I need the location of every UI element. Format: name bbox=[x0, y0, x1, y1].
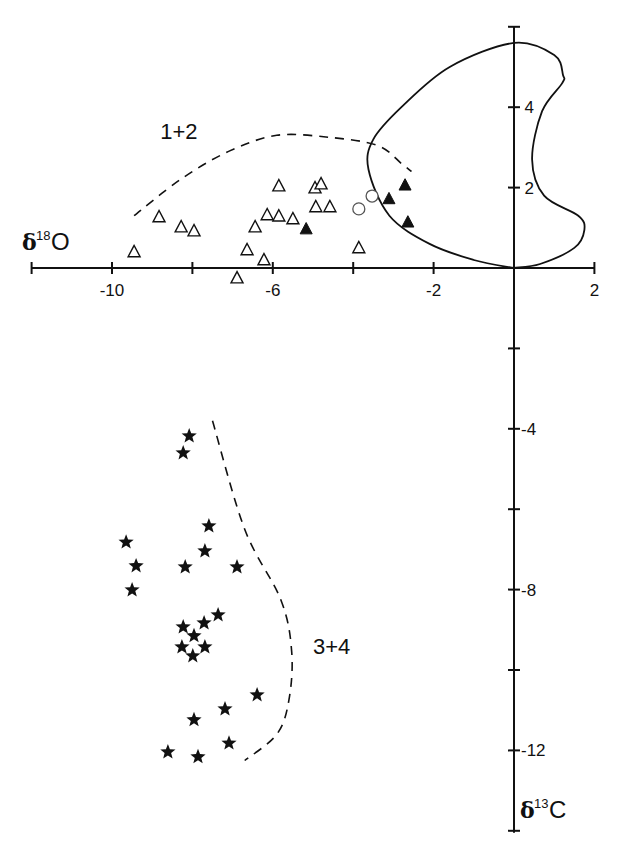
open-triangle-marker bbox=[175, 221, 187, 232]
star-marker bbox=[174, 639, 189, 654]
star-marker bbox=[178, 559, 193, 574]
y-tick-label: -12 bbox=[521, 741, 546, 760]
star-marker bbox=[176, 445, 191, 460]
x-axis-title: δ18O bbox=[22, 228, 70, 255]
open-triangle-marker bbox=[249, 221, 261, 232]
open-triangle-marker bbox=[188, 225, 200, 236]
group-label-3-plus-4: 3+4 bbox=[313, 634, 350, 659]
star-marker bbox=[217, 701, 232, 716]
star-marker bbox=[176, 619, 191, 634]
star-marker bbox=[125, 582, 140, 597]
open-triangle-marker bbox=[310, 200, 322, 211]
filled-triangle-marker bbox=[402, 216, 414, 227]
x-tick-label: -2 bbox=[426, 281, 441, 300]
star-marker bbox=[211, 607, 226, 622]
star-marker bbox=[186, 712, 201, 727]
open-triangle-marker bbox=[287, 212, 299, 223]
star-marker bbox=[197, 543, 212, 558]
isotope-mass: 13 bbox=[534, 796, 548, 811]
x-tick-label: -6 bbox=[265, 281, 280, 300]
open-triangle-marker bbox=[128, 245, 140, 256]
star-marker bbox=[197, 639, 212, 654]
region-curves bbox=[134, 43, 585, 761]
filled-triangle-marker bbox=[300, 223, 312, 234]
y-tick-label: -4 bbox=[521, 420, 536, 439]
star-marker bbox=[229, 559, 244, 574]
open-triangle-marker bbox=[273, 180, 285, 191]
y-tick-label: -8 bbox=[521, 581, 536, 600]
open-triangle-marker bbox=[273, 210, 285, 221]
axes: -10-6-22 4 2-4-8-12δ18Oδ13C bbox=[22, 27, 599, 833]
y-tick-label: 2 bbox=[521, 179, 534, 198]
x-tick-label: -10 bbox=[100, 281, 125, 300]
star-marker bbox=[190, 749, 205, 764]
open-triangle-marker bbox=[231, 272, 243, 283]
star-marker bbox=[182, 428, 197, 443]
open-triangle-marker bbox=[153, 210, 165, 221]
solid-envelope bbox=[367, 43, 584, 268]
open-circle-marker bbox=[353, 203, 365, 215]
open-triangle-marker bbox=[261, 208, 273, 219]
x-tick-label: 2 bbox=[590, 281, 599, 300]
y-tick-label: 4 bbox=[521, 98, 534, 117]
isotope-mass: 18 bbox=[36, 228, 50, 243]
stars-series bbox=[119, 428, 265, 763]
open-triangle-marker bbox=[315, 178, 327, 189]
open-triangle-marker bbox=[241, 243, 253, 254]
star-marker bbox=[186, 628, 201, 643]
open-circles-series bbox=[353, 190, 378, 215]
group-label-1-plus-2: 1+2 bbox=[160, 119, 197, 144]
scatter-chart: -10-6-22 4 2-4-8-12δ18Oδ13C 1+23+4 bbox=[0, 0, 627, 856]
y-axis-title: δ13C bbox=[520, 796, 566, 823]
open-circle-marker bbox=[366, 190, 378, 202]
element-symbol: C bbox=[549, 796, 566, 823]
open-triangle-marker bbox=[258, 253, 270, 264]
delta-symbol: δ bbox=[22, 229, 37, 255]
open-triangle-marker bbox=[353, 241, 365, 252]
filled-triangle-marker bbox=[383, 192, 395, 203]
star-marker bbox=[250, 687, 265, 702]
star-marker bbox=[160, 744, 175, 759]
delta-symbol: δ bbox=[520, 797, 535, 823]
star-marker bbox=[221, 735, 236, 749]
star-marker bbox=[119, 534, 134, 548]
star-marker bbox=[201, 518, 216, 533]
star-marker bbox=[185, 648, 200, 663]
group-labels: 1+23+4 bbox=[160, 119, 350, 659]
star-marker bbox=[196, 615, 211, 629]
open-triangle-marker bbox=[324, 200, 336, 211]
filled-triangle-marker bbox=[399, 179, 411, 190]
data-points bbox=[119, 178, 414, 764]
star-marker bbox=[129, 558, 144, 573]
element-symbol: O bbox=[51, 228, 70, 255]
